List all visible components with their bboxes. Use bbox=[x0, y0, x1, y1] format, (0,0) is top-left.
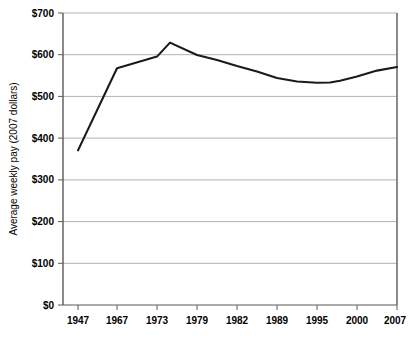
x-tick-label-1967: 1967 bbox=[106, 315, 129, 326]
x-tick-label-1973: 1973 bbox=[146, 315, 169, 326]
x-tick-label-2007: 2007 bbox=[384, 315, 407, 326]
y-tick-marks bbox=[58, 13, 63, 305]
x-axis-tick-labels: 1947 1967 1973 1979 1982 1989 1995 2000 … bbox=[67, 315, 407, 326]
y-tick-label-100: $100 bbox=[32, 258, 55, 269]
line-chart: $700 $600 $500 $400 $300 $200 $100 $0 19… bbox=[0, 0, 415, 341]
y-tick-label-200: $200 bbox=[32, 216, 55, 227]
x-tick-label-2000: 2000 bbox=[346, 315, 369, 326]
x-tick-label-1947: 1947 bbox=[67, 315, 90, 326]
y-tick-label-500: $500 bbox=[32, 91, 55, 102]
y-axis-title: Average weekly pay (2007 dollars) bbox=[8, 82, 19, 235]
y-tick-label-300: $300 bbox=[32, 174, 55, 185]
y-tick-label-700: $700 bbox=[32, 8, 55, 19]
y-tick-label-400: $400 bbox=[32, 133, 55, 144]
x-tick-label-1979: 1979 bbox=[186, 315, 209, 326]
x-tick-label-1995: 1995 bbox=[306, 315, 329, 326]
y-tick-label-600: $600 bbox=[32, 49, 55, 60]
x-tick-marks bbox=[78, 305, 397, 310]
y-axis-tick-labels: $700 $600 $500 $400 $300 $200 $100 $0 bbox=[32, 8, 55, 311]
x-tick-label-1989: 1989 bbox=[266, 315, 289, 326]
plot-area-background bbox=[63, 13, 397, 305]
y-tick-label-0: $0 bbox=[43, 300, 55, 311]
chart-canvas: $700 $600 $500 $400 $300 $200 $100 $0 19… bbox=[0, 0, 415, 341]
x-tick-label-1982: 1982 bbox=[226, 315, 249, 326]
